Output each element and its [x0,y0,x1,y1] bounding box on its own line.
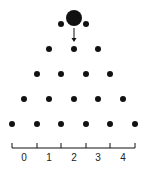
peg [34,71,40,77]
peg [132,121,138,127]
bin-labels: 01234 [21,152,126,163]
peg [58,21,64,27]
peg [83,21,89,27]
peg [83,121,89,127]
falling-ball [66,10,82,26]
peg [71,96,77,102]
bin-label: 1 [46,152,52,163]
peg [71,46,77,52]
peg [107,71,113,77]
peg [46,96,52,102]
peg [83,71,89,77]
peg [107,121,113,127]
bin-label: 3 [95,152,101,163]
peg [34,121,40,127]
bin-axis [12,143,135,148]
bin-label: 2 [71,152,77,163]
peg [21,96,27,102]
peg [58,71,64,77]
peg [120,96,126,102]
peg [9,121,15,127]
down-arrow-icon [72,28,77,42]
bin-label: 0 [21,152,27,163]
peg [58,121,64,127]
peg [95,96,101,102]
bin-label: 4 [120,152,126,163]
peg [46,46,52,52]
peg [95,46,101,52]
galton-board-diagram: 01234 [0,0,150,172]
